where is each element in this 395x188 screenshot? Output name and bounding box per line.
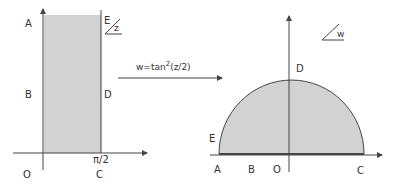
conformal-map-diagram: z A B E D π/2 O C w=tan2(z/2) w D E A B … [0,0,395,188]
label-C: C [357,165,364,176]
label-E: E [104,15,110,26]
half-disk-region [219,80,364,154]
label-pi-half: π/2 [93,154,109,165]
strip-region [44,15,101,153]
w-plane-label: w [337,29,344,39]
z-plane-label: z [114,23,119,33]
label-B: B [248,164,255,175]
label-O: O [23,169,31,180]
mapping: w=tan2(z/2) [118,60,222,78]
label-E: E [209,133,215,144]
z-plane: z A B E D π/2 O C [13,9,147,180]
mapping-formula: w=tan2(z/2) [136,60,191,72]
label-B: B [25,89,32,100]
label-D: D [296,63,304,74]
label-C: C [96,169,103,180]
label-A: A [25,18,32,29]
label-A: A [214,164,221,175]
label-O: O [273,164,281,175]
label-D: D [104,89,112,100]
w-plane-symbol: w [322,24,344,40]
w-plane: w D E A B O C [209,16,382,176]
